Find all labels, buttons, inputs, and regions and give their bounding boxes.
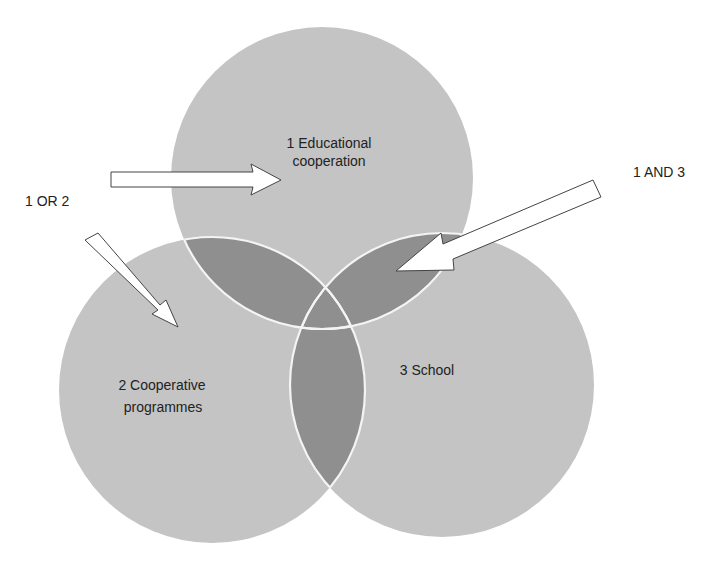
annotation-1-or-2: 1 OR 2 (25, 193, 70, 209)
set-1-label-line1: 1 Educational (287, 135, 372, 151)
annotation-1-and-3: 1 AND 3 (633, 164, 685, 180)
set-2-label-line2: programmes (124, 399, 203, 415)
set-2-label-line1: 2 Cooperative (118, 377, 205, 393)
set-3-label: 3 School (400, 362, 454, 378)
set-1-label-line2: cooperation (292, 153, 365, 169)
venn-diagram: 1 Educational cooperation 2 Cooperative … (0, 0, 725, 568)
